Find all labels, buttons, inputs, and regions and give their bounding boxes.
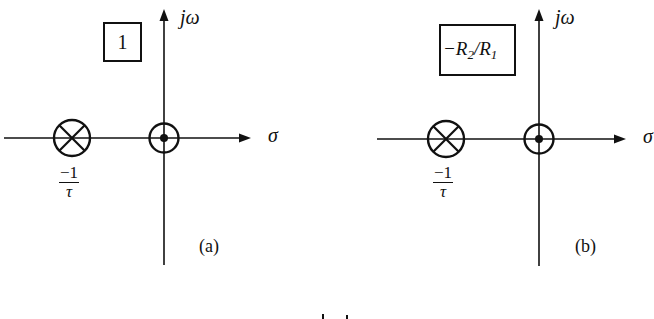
pole-label-b: −1 τ — [433, 164, 453, 201]
caption-b: (b) — [575, 236, 596, 257]
bottom-fragment-mark — [322, 314, 324, 319]
sigma-label-b: σ — [643, 125, 653, 148]
gain-value-b: −R2/R1 — [443, 38, 497, 63]
sigma-label-a: σ — [268, 124, 278, 147]
pole-label-numerator-b: −1 — [433, 164, 453, 183]
pole-label-a: −1 τ — [59, 164, 79, 201]
jw-label-b: jω — [555, 6, 575, 29]
caption-a: (a) — [199, 236, 219, 257]
jw-arrow-icon-a — [160, 9, 169, 21]
gain-box-b: −R2/R1 — [439, 24, 516, 76]
gain-box-a: 1 — [103, 22, 142, 62]
pole-label-denominator-a: τ — [66, 183, 72, 201]
sigma-arrow-icon-b — [614, 135, 626, 144]
pole-label-numerator-a: −1 — [59, 164, 79, 183]
gain-value-a: 1 — [118, 31, 128, 54]
jw-arrow-icon-b — [535, 9, 544, 21]
pole-label-denominator-b: τ — [440, 183, 446, 201]
sigma-arrow-icon-a — [239, 134, 251, 143]
pole-zero-diagram: 1 jω σ −1 τ (a) −R2/R1 jω σ −1 τ (b) — [0, 0, 654, 319]
jw-label-a: jω — [180, 6, 200, 29]
bottom-fragment-mark — [346, 315, 348, 319]
diagram-graphics — [0, 0, 654, 319]
